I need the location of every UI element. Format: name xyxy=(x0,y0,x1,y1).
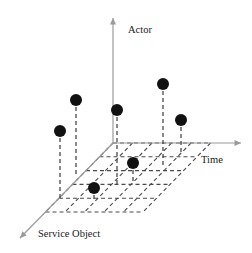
data-point-marker xyxy=(70,94,82,106)
data-point-marker xyxy=(175,114,187,126)
actor-axis-label: Actor xyxy=(128,24,152,35)
grid-line-v xyxy=(65,143,133,212)
scatter-3d-diagram: Actor Time Service Object xyxy=(0,0,252,253)
figure-container: Actor Time Service Object xyxy=(0,0,252,253)
grid-line-v xyxy=(124,143,192,212)
grid-line-v xyxy=(104,143,172,212)
data-point-marker xyxy=(127,157,139,169)
service-object-axis-label: Service Object xyxy=(38,228,100,239)
data-point-marker xyxy=(54,125,66,137)
actor-axis-arrow-icon xyxy=(110,18,116,25)
data-points-group xyxy=(54,78,187,200)
grid-plane-group xyxy=(46,143,211,212)
time-axis-arrow-icon xyxy=(235,140,242,146)
time-axis-label: Time xyxy=(201,154,223,165)
data-point-marker xyxy=(88,182,100,194)
data-point-marker xyxy=(111,104,123,116)
data-point-marker xyxy=(157,78,169,90)
grid-line-v xyxy=(85,143,153,212)
